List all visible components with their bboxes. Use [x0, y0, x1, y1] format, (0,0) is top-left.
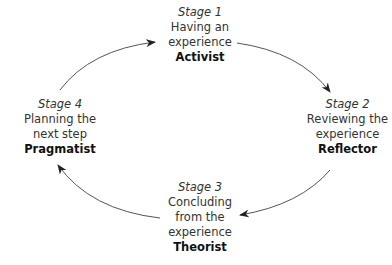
stage-4-line1: Planning the — [10, 112, 110, 127]
stage-3: Stage 3 Concluding from the experience T… — [140, 180, 260, 255]
stage-2-label: Stage 2 — [300, 97, 392, 112]
stage-1: Stage 1 Having an experience Activist — [140, 5, 260, 65]
stage-2-role: Reflector — [300, 142, 392, 157]
stage-2-line2: experience — [300, 127, 392, 142]
stage-4-label: Stage 4 — [10, 97, 110, 112]
stage-2: Stage 2 Reviewing the experience Reflect… — [300, 97, 392, 157]
stage-2-line1: Reviewing the — [300, 112, 392, 127]
stage-3-line1: Concluding — [140, 195, 260, 210]
stage-3-line3: experience — [140, 225, 260, 240]
stage-1-role: Activist — [140, 50, 260, 65]
stage-4-line2: next step — [10, 127, 110, 142]
stage-3-role: Theorist — [140, 240, 260, 255]
stage-1-line1: Having an — [140, 20, 260, 35]
stage-3-line2: from the — [140, 210, 260, 225]
stage-1-line2: experience — [140, 35, 260, 50]
stage-3-label: Stage 3 — [140, 180, 260, 195]
stage-4-role: Pragmatist — [10, 142, 110, 157]
stage-1-label: Stage 1 — [140, 5, 260, 20]
stage-4: Stage 4 Planning the next step Pragmatis… — [10, 97, 110, 157]
